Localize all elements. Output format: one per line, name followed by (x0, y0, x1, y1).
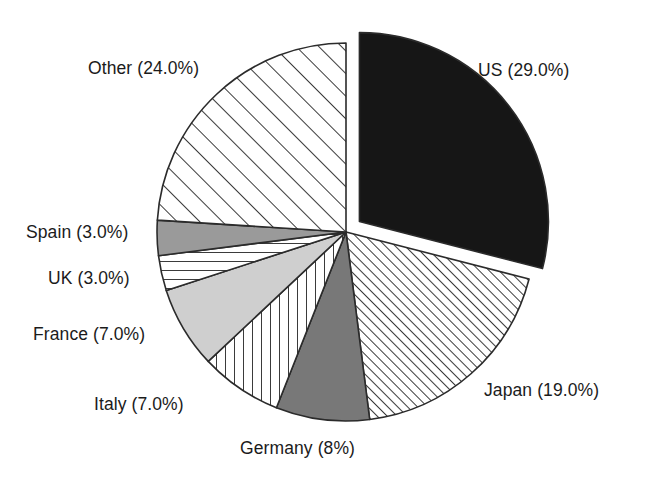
pie-label-japan: Japan (19.0%) (484, 382, 599, 400)
pie-label-other: Other (24.0%) (88, 60, 199, 78)
pie-label-spain: Spain (3.0%) (26, 224, 128, 242)
pie-label-germany: Germany (8%) (240, 440, 355, 458)
pie-label-france: France (7.0%) (33, 326, 145, 344)
pie-label-us: US (29.0%) (478, 62, 569, 80)
pie-slices (157, 33, 548, 421)
pie-label-italy: Italy (7.0%) (94, 396, 184, 414)
pie-label-uk: UK (3.0%) (48, 270, 130, 288)
pie-chart-figure: US (29.0%)Japan (19.0%)Germany (8%)Italy… (0, 0, 665, 489)
